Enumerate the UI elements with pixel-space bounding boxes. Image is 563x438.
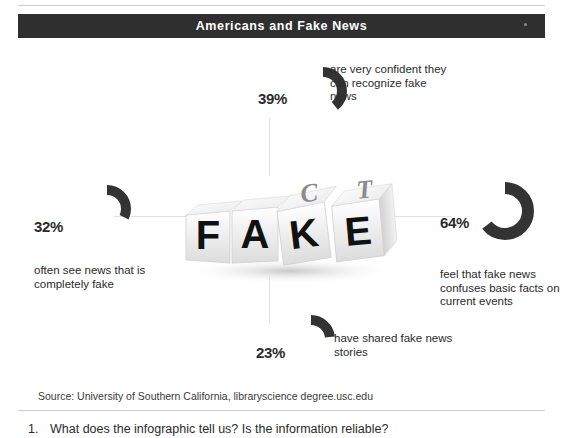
- stat-confuses-facts: 64% feel that fake news confuses basic f…: [440, 178, 563, 328]
- top-divider: [18, 5, 545, 6]
- question-item: 1. What does the infographic tell us? Is…: [28, 422, 548, 436]
- donut-chart-32: [80, 182, 134, 236]
- stat-have-shared: 23% have shared fake news stories: [256, 312, 476, 382]
- svg-text:E: E: [343, 208, 373, 254]
- donut-chart-23: [284, 312, 338, 366]
- stat-caption-23: have shared fake news stories: [334, 332, 454, 359]
- question-number: 1.: [28, 422, 50, 436]
- source-line: Source: University of Southern Californi…: [38, 390, 373, 402]
- svg-text:K: K: [287, 210, 321, 257]
- infographic-title: Americans and Fake News: [196, 19, 368, 33]
- infographic-header-bar: Americans and Fake News: [18, 14, 545, 38]
- header-dot-icon: [524, 23, 527, 26]
- page-root: Americans and Fake News: [0, 0, 563, 438]
- stat-caption-64: feel that fake news confuses basic facts…: [440, 268, 563, 309]
- svg-text:F: F: [196, 213, 220, 257]
- svg-text:C: C: [299, 178, 320, 209]
- stat-often-see-fake: 32% often see news that is completely fa…: [32, 182, 197, 322]
- svg-text:A: A: [241, 212, 270, 256]
- stat-percent-23: 23%: [256, 344, 285, 361]
- donut-chart-64: [472, 178, 538, 244]
- stat-caption-39: are very confident they can recognize fa…: [330, 63, 455, 104]
- stat-percent-39: 39%: [258, 90, 287, 107]
- infographic-container: Americans and Fake News: [18, 12, 545, 408]
- stat-caption-32: often see news that is completely fake: [34, 264, 184, 291]
- svg-text:T: T: [355, 174, 374, 204]
- stat-very-confident: 39% are very confident they can recogniz…: [258, 60, 488, 140]
- stat-percent-32: 32%: [34, 218, 63, 235]
- question-text: What does the infographic tell us? Is th…: [50, 422, 388, 436]
- stat-percent-64: 64%: [440, 214, 469, 231]
- fake-fact-blocks-image: F A K C: [168, 167, 413, 292]
- bottom-divider: [18, 410, 545, 411]
